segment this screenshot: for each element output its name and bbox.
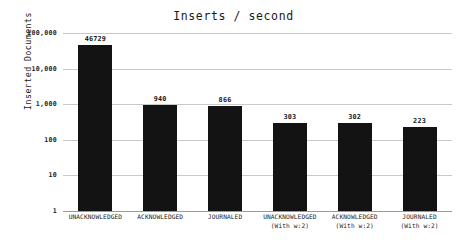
x-axis-category-label: UNACKNOWLEDGED(With w:2) [258,213,323,230]
bar-value-label: 223 [413,117,426,125]
y-axis-tick-label: 1 [53,207,57,215]
x-axis-category-line2: (With w:2) [322,222,387,231]
plot-area: 1101001,00010,000100,000 467299408663033… [63,33,452,211]
bar-slot: 46729 [63,33,128,211]
x-axis-category-label: UNACKNOWLEDGED [63,213,128,222]
bar[interactable] [273,123,307,211]
x-axis-category-line1: UNACKNOWLEDGED [263,213,317,220]
bar-slot: 302 [322,33,387,211]
x-axis-category-line1: ACKNOWLEDGED [332,213,378,220]
x-axis-category-line2: (With w:2) [387,222,452,231]
x-axis-category-label: JOURNALED(With w:2) [387,213,452,230]
x-axis-category-label: ACKNOWLEDGED(With w:2) [322,213,387,230]
bar-value-label: 866 [219,96,232,104]
x-axis-category-line1: JOURNALED [208,213,242,220]
chart-title: Inserts / second [0,9,467,23]
bar-value-label: 302 [348,113,361,121]
y-axis-tick-label: 100,000 [27,29,57,37]
bar[interactable] [403,127,437,211]
bar-slot: 223 [387,33,452,211]
x-axis-category-label: ACKNOWLEDGED [128,213,193,222]
x-axis-category-line2: (With w:2) [258,222,323,231]
y-axis-tick-label: 100 [44,136,57,144]
x-axis-category-line1: UNACKNOWLEDGED [69,213,123,220]
y-axis-tick-label: 10,000 [31,65,57,73]
x-axis-category-line1: JOURNALED [402,213,436,220]
y-axis-tick-label: 1,000 [36,100,57,108]
x-axis-category-line1: ACKNOWLEDGED [137,213,183,220]
chart-container: Inserts / second Inserted Documents 1101… [0,0,467,248]
bar-value-label: 940 [154,95,167,103]
y-axis-tick-label: 10 [48,171,57,179]
x-axis-category-label: JOURNALED [193,213,258,222]
bar[interactable] [208,106,242,211]
bar-value-label: 303 [283,113,296,121]
bar-slot: 866 [193,33,258,211]
bar-slot: 303 [258,33,323,211]
gridline [63,211,452,212]
bar-value-label: 46729 [85,35,106,43]
bar[interactable] [338,123,372,211]
bar[interactable] [78,45,112,211]
bar-slot: 940 [128,33,193,211]
bar[interactable] [143,105,177,211]
